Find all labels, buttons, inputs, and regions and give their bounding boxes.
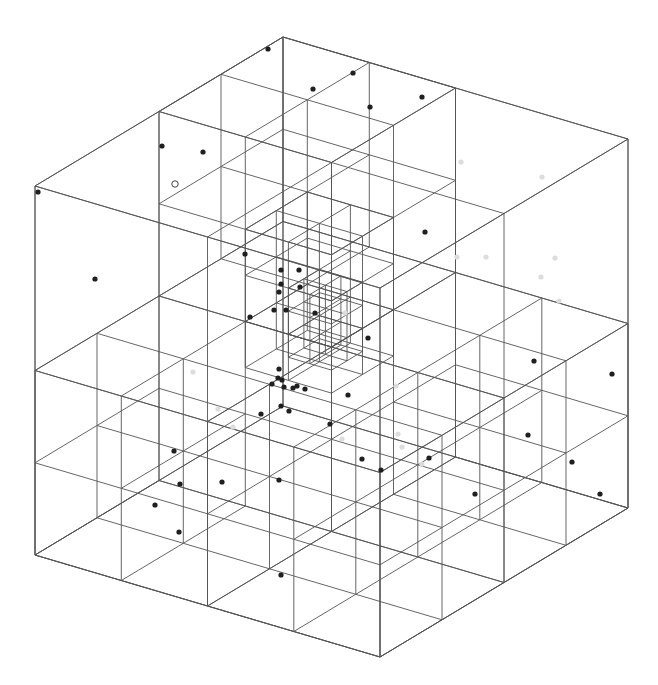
data-point xyxy=(275,375,280,380)
faint-data-point xyxy=(393,383,398,388)
data-point xyxy=(247,314,252,319)
cell-edge xyxy=(183,506,245,543)
faint-data-point xyxy=(342,310,347,315)
data-point xyxy=(281,384,286,389)
cell-edge xyxy=(183,451,269,477)
cell-edge xyxy=(394,273,456,310)
data-point xyxy=(426,455,431,460)
data-point xyxy=(177,481,182,486)
cell-edge xyxy=(35,518,97,555)
cell-edge xyxy=(542,390,628,416)
cell-edge xyxy=(504,139,628,214)
cell-edge xyxy=(418,557,504,583)
faint-data-point xyxy=(230,424,235,429)
cell-edge xyxy=(566,324,628,361)
cell-edge xyxy=(276,192,307,211)
cell-edge xyxy=(363,310,394,329)
cell-edge xyxy=(159,388,245,414)
data-point xyxy=(35,189,40,194)
cell-edge xyxy=(245,137,331,163)
cell-edge xyxy=(566,416,628,453)
cell-edge xyxy=(270,532,332,569)
data-point xyxy=(312,310,317,315)
cell-edge xyxy=(394,88,456,125)
cell-edge xyxy=(208,606,294,632)
cell-edge xyxy=(456,88,629,139)
cell-edge xyxy=(121,396,207,422)
cell-edge xyxy=(35,186,208,237)
cell-edge xyxy=(304,339,320,348)
data-point xyxy=(350,70,355,75)
cell-edge xyxy=(307,192,350,205)
cell-edge xyxy=(159,167,221,204)
cell-edge xyxy=(332,439,418,465)
cell-edge xyxy=(418,335,480,372)
cell-edge xyxy=(480,520,566,546)
cell-edge xyxy=(221,129,283,166)
data-point xyxy=(278,403,283,408)
cell-edge xyxy=(208,477,270,514)
faint-data-point xyxy=(419,461,424,466)
cell-edge xyxy=(394,180,456,217)
cell-edge xyxy=(480,298,542,335)
cell-edge xyxy=(221,167,307,193)
cell-edge xyxy=(270,569,356,595)
data-point xyxy=(569,459,574,464)
cell-edge xyxy=(159,112,245,138)
cell-edge xyxy=(97,426,183,452)
faint-data-point xyxy=(339,436,344,441)
cell-edge xyxy=(350,205,393,218)
cell-edge xyxy=(183,414,245,451)
cell-edge xyxy=(159,204,245,230)
cell-edge xyxy=(566,508,628,545)
cell-edge xyxy=(394,310,480,336)
cell-edge xyxy=(221,37,283,74)
cell-edge xyxy=(347,305,363,314)
octree-canvas xyxy=(0,0,658,685)
cell-edge xyxy=(504,361,566,398)
cell-edge xyxy=(288,242,331,255)
cell-edge xyxy=(270,439,332,476)
cell-edge xyxy=(97,481,159,518)
cell-edge xyxy=(121,543,183,580)
cell-edge xyxy=(307,247,369,284)
cell-edge xyxy=(369,155,455,181)
cell-edge xyxy=(347,351,363,360)
data-point xyxy=(159,143,164,148)
cell-edge xyxy=(35,112,159,187)
cell-edge xyxy=(310,285,326,294)
cell-edge xyxy=(456,273,542,299)
cell-edge xyxy=(294,410,356,447)
cell-edge xyxy=(307,100,393,126)
cell-edge xyxy=(363,218,394,237)
data-point xyxy=(310,86,315,91)
cell-edge xyxy=(418,520,480,557)
cell-edge xyxy=(369,63,455,89)
cell-edge xyxy=(288,362,319,381)
data-point xyxy=(219,479,224,484)
cell-edge xyxy=(319,251,350,270)
cell-edge xyxy=(480,335,566,361)
cell-edge xyxy=(208,514,294,540)
data-point xyxy=(359,456,364,461)
cell-edge xyxy=(270,477,356,503)
cell-edge xyxy=(276,238,307,257)
cell-edge xyxy=(347,328,363,337)
cell-edge xyxy=(356,465,418,502)
data-point xyxy=(286,408,291,413)
cell-edge xyxy=(332,163,505,214)
hollow-data-point xyxy=(172,181,178,187)
data-point xyxy=(419,94,424,99)
cell-edge xyxy=(221,222,283,259)
data-point xyxy=(258,411,263,416)
cell-edge xyxy=(307,238,350,251)
faint-data-point xyxy=(483,254,488,259)
faint-data-point xyxy=(539,174,544,179)
cell-edge xyxy=(288,348,304,357)
cell-edge xyxy=(347,282,363,291)
cell-edge xyxy=(121,451,183,488)
cell-edge xyxy=(504,453,566,490)
cell-edge xyxy=(341,322,363,328)
cell-edge xyxy=(307,155,369,192)
cell-edge xyxy=(159,296,245,322)
